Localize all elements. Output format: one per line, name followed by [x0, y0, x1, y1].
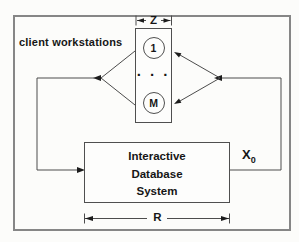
diagram-canvas: client workstations Z 1 · · · M Interact…	[0, 0, 299, 242]
right-junction-arrowhead-icon	[214, 75, 222, 81]
workstations-box: 1 · · · M	[135, 28, 172, 123]
interactive-database-system-box: Interactive Database System	[84, 142, 230, 203]
r-right-arrowhead-icon	[221, 216, 229, 221]
x0-base: X	[242, 147, 251, 162]
response-time-r-label: R	[149, 211, 166, 223]
z-right-arrowhead-icon	[164, 18, 171, 23]
think-time-z-label: Z	[146, 14, 161, 26]
ids-box-line-3: System	[85, 183, 229, 201]
workstation-1-node: 1	[143, 37, 165, 59]
workstation-m-node: M	[143, 92, 165, 114]
x0-subscript: 0	[251, 155, 256, 165]
right-fanout-lines	[174, 52, 220, 104]
throughput-x0-label: X0	[242, 147, 256, 162]
z-left-arrowhead-icon	[137, 18, 144, 23]
workstation-1-arrowhead-icon	[174, 52, 181, 58]
r-left-arrowhead-icon	[85, 216, 93, 221]
ids-box-line-1: Interactive	[85, 148, 229, 166]
client-workstations-label: client workstations	[19, 36, 122, 48]
left-fanin-lines	[93, 51, 135, 105]
ids-box-line-2: Database	[85, 166, 229, 184]
workstation-m-arrowhead-icon	[174, 98, 181, 104]
ellipsis-dots: · · ·	[136, 68, 171, 83]
